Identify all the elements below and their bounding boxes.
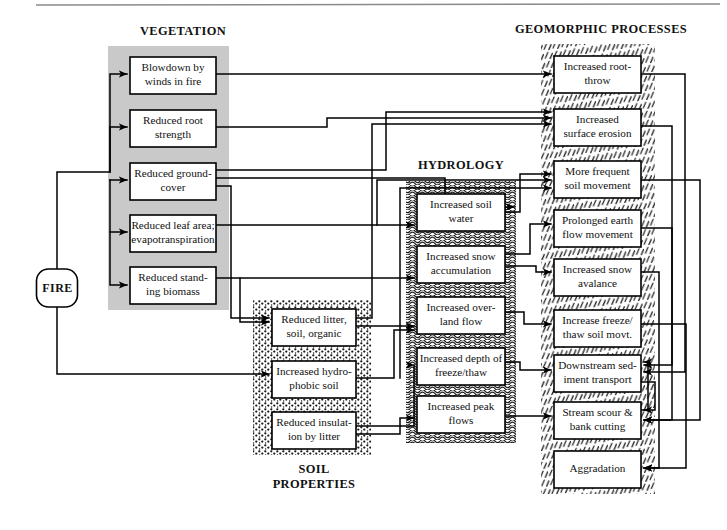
node-label-line: Reduced leaf area; xyxy=(131,219,214,231)
node-label-line: cover xyxy=(161,181,186,193)
node-v1[interactable]: Blowdown bywinds in fire xyxy=(130,57,216,94)
node-label-line: freeze/thaw xyxy=(435,366,488,378)
node-h5[interactable]: Increased peakflows xyxy=(417,396,505,433)
node-label-line: phobic soil xyxy=(289,379,338,391)
diagram-canvas: Blowdown bywinds in fireReduced rootstre… xyxy=(0,0,727,530)
node-label-line: ing biomass xyxy=(146,285,200,297)
group-caption-geomorphic: GEOMORPHIC PROCESSES xyxy=(515,22,687,36)
node-label-line: Aggradation xyxy=(570,462,626,474)
node-h1[interactable]: Increased soilwater xyxy=(417,194,505,231)
node-label-line: Increased xyxy=(576,113,619,125)
node-h4[interactable]: Increased depth offreeze/thaw xyxy=(417,348,505,385)
group-caption-soil: PROPERTIES xyxy=(273,477,356,491)
node-label-line: Downstream sed- xyxy=(558,359,637,371)
node-label-line: accumulation xyxy=(431,264,492,276)
node-label-line: surface erosion xyxy=(563,127,631,139)
node-h3[interactable]: Increased over-land flow xyxy=(417,297,505,334)
node-v5[interactable]: Reduced stand-ing biomass xyxy=(130,267,216,304)
node-label-line: Increased snow xyxy=(563,263,633,275)
node-label-line: water xyxy=(449,212,474,224)
page-top-rule xyxy=(36,4,720,5)
node-label-line: Increased depth of xyxy=(420,352,503,364)
node-label-line: More frequent xyxy=(565,165,630,177)
node-label-line: land flow xyxy=(440,315,483,327)
node-label-line: Increased soil xyxy=(430,198,492,210)
node-label-line: Reduced root xyxy=(143,114,204,126)
node-label-line: Increased over- xyxy=(426,301,495,313)
node-label-line: Reduced litter, xyxy=(281,313,347,325)
fire-source-node[interactable]: FIRE xyxy=(37,269,78,307)
node-g2[interactable]: Increasedsurface erosion xyxy=(554,109,641,146)
node-label-line: Stream scour & xyxy=(562,406,633,418)
node-label-line: winds in fire xyxy=(145,75,202,87)
fire-node-label: FIRE xyxy=(42,281,73,295)
node-label-line: Reduced stand- xyxy=(138,271,208,283)
group-caption-hydrology: HYDROLOGY xyxy=(418,158,504,172)
node-s2[interactable]: Increased hydro-phobic soil xyxy=(272,361,356,398)
node-label-line: thaw soil movt. xyxy=(563,328,633,340)
node-g9[interactable]: Aggradation xyxy=(554,451,641,488)
node-label-line: Increased hydro- xyxy=(276,365,352,377)
node-s1[interactable]: Reduced litter,soil, organic xyxy=(272,309,356,346)
node-label-line: Increased root- xyxy=(564,60,632,72)
node-g6[interactable]: Increase freeze/thaw soil movt. xyxy=(554,310,641,347)
node-label-line: avalance xyxy=(578,277,617,289)
node-label-line: Prolonged earth xyxy=(562,214,634,226)
node-label-line: Increase freeze/ xyxy=(562,314,633,326)
node-label-line: bank cutting xyxy=(570,420,626,432)
node-label-line: soil, organic xyxy=(286,327,341,339)
fire-effects-flow-diagram: Blowdown bywinds in fireReduced rootstre… xyxy=(0,0,727,530)
node-v2[interactable]: Reduced rootstrength xyxy=(130,110,216,147)
node-label-line: flows xyxy=(449,414,474,426)
node-label-line: Blowdown by xyxy=(141,61,204,73)
node-g5[interactable]: Increased snowavalance xyxy=(554,259,641,296)
node-v3[interactable]: Reduced ground-cover xyxy=(130,163,216,200)
edge-FIRE-to-s2 xyxy=(57,306,269,374)
node-h2[interactable]: Increased snowaccumulation xyxy=(417,246,505,283)
node-g4[interactable]: Prolonged earthflow movement xyxy=(554,210,641,247)
node-label-line: strength xyxy=(155,128,191,140)
edge-v2-to-g2 xyxy=(216,118,551,127)
node-v4[interactable]: Reduced leaf area;evapotranspiration xyxy=(130,215,216,252)
node-label-line: Reduced ground- xyxy=(134,167,212,179)
node-label-line: soil movement xyxy=(564,179,631,191)
node-label-line: iment transport xyxy=(563,373,632,385)
node-label-line: flow movement xyxy=(562,228,633,240)
node-g3[interactable]: More frequentsoil movement xyxy=(554,161,641,198)
node-label-line: evapotranspiration xyxy=(131,233,215,245)
node-label-line: Reduced insulat- xyxy=(276,416,352,428)
group-caption-soil: SOIL xyxy=(298,462,329,476)
group-caption-vegetation: VEGETATION xyxy=(140,24,226,38)
node-label-line: ion by litter xyxy=(288,430,340,442)
node-label-line: throw xyxy=(584,74,611,86)
node-s3[interactable]: Reduced insulat-ion by litter xyxy=(272,412,356,449)
node-g8[interactable]: Stream scour &bank cutting xyxy=(554,402,641,439)
node-g1[interactable]: Increased root-throw xyxy=(554,56,641,93)
node-g7[interactable]: Downstream sed-iment transport xyxy=(554,355,641,392)
node-label-line: Increased snow xyxy=(426,250,496,262)
node-label-line: Increased peak xyxy=(428,400,495,412)
